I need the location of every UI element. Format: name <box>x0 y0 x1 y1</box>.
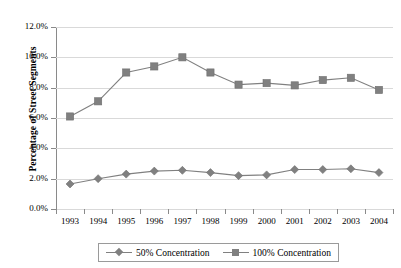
data-point-square <box>347 74 354 81</box>
data-point-diamond <box>263 171 271 179</box>
legend-item-50-concentration[interactable]: 50% Concentration <box>106 247 210 258</box>
legend-label-50-concentration: 50% Concentration <box>136 248 210 258</box>
data-point-square <box>235 81 242 88</box>
data-point-square <box>207 69 214 76</box>
square-marker-icon <box>223 247 249 258</box>
data-point-square <box>95 98 102 105</box>
legend-item-100-concentration[interactable]: 100% Concentration <box>223 247 331 258</box>
data-point-diamond <box>319 166 327 174</box>
data-point-square <box>319 76 326 83</box>
data-point-square <box>291 82 298 89</box>
series-1 <box>66 165 383 188</box>
data-point-diamond <box>235 172 243 180</box>
data-point-diamond <box>94 175 102 183</box>
series-layer <box>0 0 401 268</box>
chart-legend: 50% Concentration 100% Concentration <box>98 243 339 262</box>
series-2 <box>66 54 382 120</box>
data-point-diamond <box>206 169 214 177</box>
data-point-diamond <box>291 166 299 174</box>
data-point-square <box>375 86 382 93</box>
data-point-diamond <box>178 166 186 174</box>
data-point-square <box>123 69 130 76</box>
data-point-diamond <box>375 169 383 177</box>
data-point-diamond <box>66 180 74 188</box>
data-point-diamond <box>347 165 355 173</box>
legend-label-100-concentration: 100% Concentration <box>253 248 331 258</box>
data-point-square <box>66 113 73 120</box>
data-point-square <box>151 63 158 70</box>
series-line <box>70 57 379 116</box>
data-point-diamond <box>150 167 158 175</box>
chart-container: Percentage of Street Segments 0.0%2.0%4.… <box>0 0 401 268</box>
series-line <box>70 169 379 184</box>
data-point-square <box>179 54 186 61</box>
data-point-diamond <box>122 170 130 178</box>
diamond-marker-icon <box>106 247 132 258</box>
data-point-square <box>263 80 270 87</box>
